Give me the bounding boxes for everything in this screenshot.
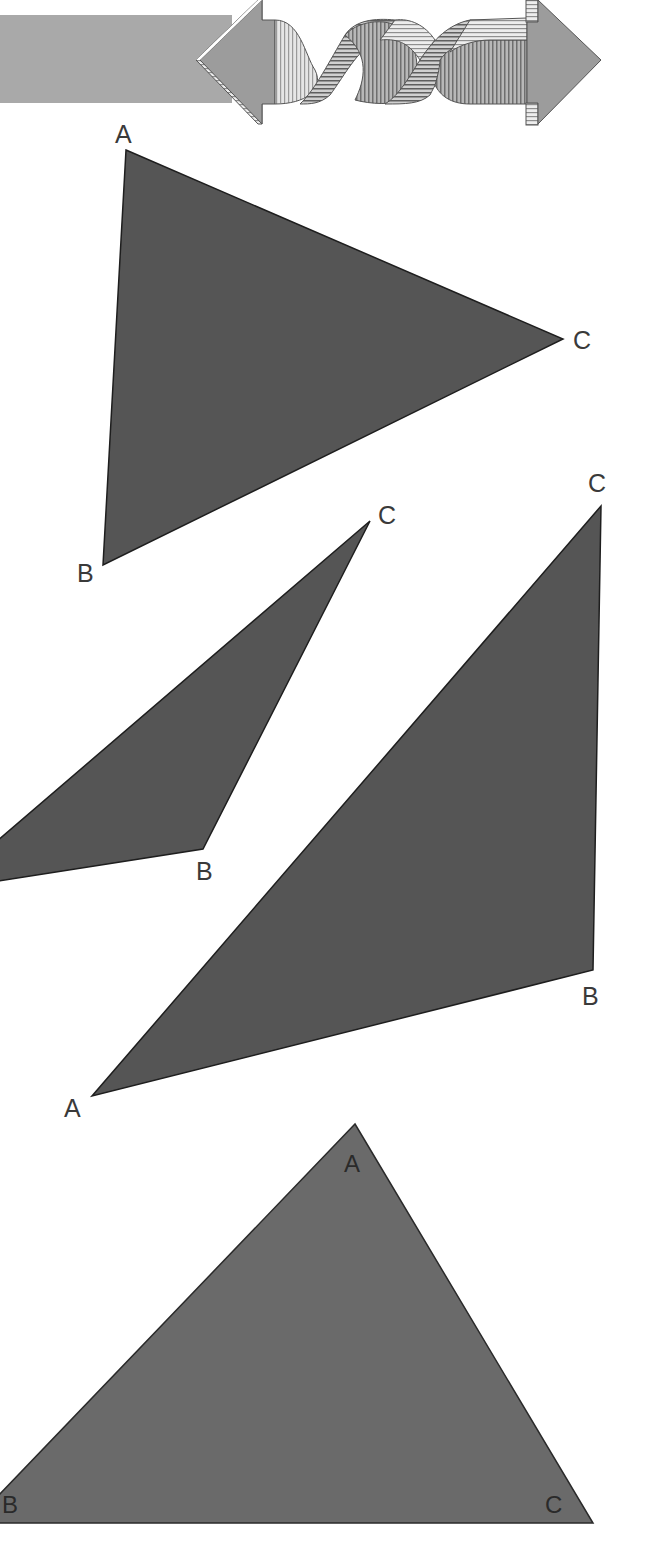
vertex-label-a: A [115, 120, 132, 148]
twisted-double-arrow-icon [196, 0, 601, 125]
vertex-label-c: C [545, 1491, 562, 1518]
triangle-4 [0, 1124, 593, 1523]
vertex-label-c: C [588, 469, 606, 497]
triangle-1 [103, 150, 563, 565]
vertex-label-b: B [77, 559, 94, 587]
vertex-label-b: B [196, 857, 213, 885]
banner [0, 0, 601, 125]
triangle-2 [0, 521, 370, 890]
diagram-canvas: A C B C B C B A A C B [0, 0, 654, 1551]
vertex-label-c: C [378, 501, 396, 529]
vertex-label-c: C [573, 326, 591, 354]
vertex-label-a: A [64, 1094, 81, 1122]
vertex-label-b: B [2, 1491, 18, 1518]
vertex-label-a: A [344, 1150, 360, 1177]
vertex-label-b: B [582, 982, 599, 1010]
